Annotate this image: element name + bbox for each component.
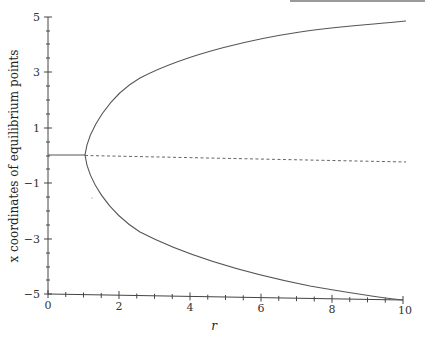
y-axis-label: x coordinates of equilibrium points (7, 50, 21, 263)
bifurcation-chart: 5 3 1 −1 −3 −5 0 2 4 6 8 10 r x coordina… (0, 0, 425, 340)
x-tick-label: 0 (45, 299, 52, 312)
x-axis-label: r (211, 319, 218, 333)
y-tick-label: 5 (33, 11, 40, 24)
x-tick-label: 2 (116, 300, 123, 313)
x-tick-label: 4 (187, 301, 194, 314)
x-tick-label: 8 (329, 303, 336, 316)
y-tick-label: −3 (24, 233, 40, 246)
scan-speck (91, 197, 93, 199)
y-tick-label: 3 (33, 66, 40, 79)
unstable-zero-branch (85, 156, 406, 163)
y-tick-label: 1 (33, 122, 40, 135)
x-tick-label: 6 (258, 302, 265, 315)
x-tick-label: 10 (398, 304, 412, 317)
upper-equilibrium-branch (85, 21, 406, 155)
y-tick-label: −5 (24, 288, 40, 301)
lower-equilibrium-branch (85, 155, 403, 300)
y-tick-label: −1 (24, 177, 40, 190)
